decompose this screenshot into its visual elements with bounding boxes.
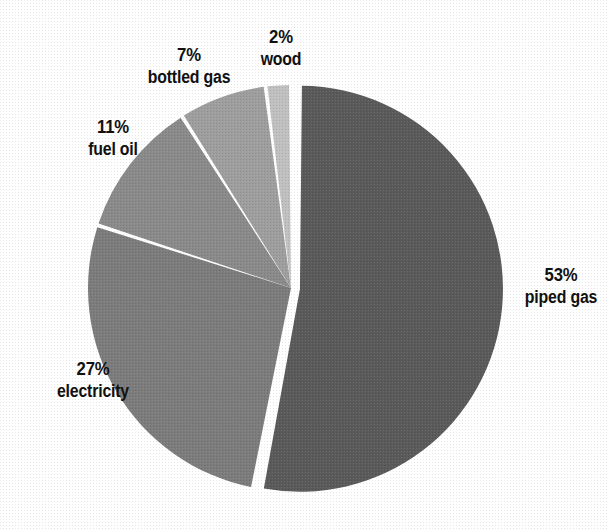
slice-category-piped-gas: piped gas xyxy=(513,287,608,308)
slice-category-electricity: electricity xyxy=(18,381,168,402)
slice-category-fuel-oil: fuel oil xyxy=(47,139,179,160)
slice-percent-electricity: 27% xyxy=(18,358,168,380)
slice-percent-fuel-oil: 11% xyxy=(47,116,179,138)
slice-label-fuel-oil: 11% fuel oil xyxy=(47,116,179,160)
pie-chart: 2% wood 7% bottled gas 11% fuel oil 27% … xyxy=(0,0,608,529)
slice-percent-bottled-gas: 7% xyxy=(114,44,264,66)
slice-label-electricity: 27% electricity xyxy=(18,358,168,402)
slice-label-bottled-gas: 7% bottled gas xyxy=(114,44,264,88)
slice-percent-piped-gas: 53% xyxy=(513,264,608,286)
pie-slice-piped-gas xyxy=(264,86,503,492)
slice-label-piped-gas: 53% piped gas xyxy=(513,264,608,308)
slice-category-bottled-gas: bottled gas xyxy=(114,67,264,88)
